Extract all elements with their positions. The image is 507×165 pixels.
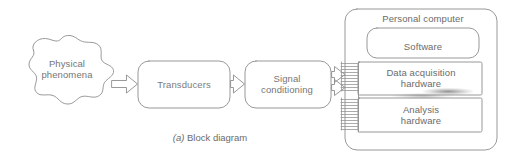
arrow-phenomena-to-transducers <box>112 75 138 93</box>
analysis-bus-ribbon <box>341 98 359 130</box>
figure-caption: (a) Block diagram <box>130 132 290 143</box>
personal-computer-label: Personal computer <box>364 13 482 24</box>
physical-phenomena-label: Physical phenomena <box>36 58 98 80</box>
arrow-signal-to-daq <box>332 67 345 83</box>
signal-conditioning-label: Signal conditioning <box>246 73 328 95</box>
figure-caption-text: Block diagram <box>187 132 247 143</box>
data-acquisition-hardware-label: Data acquisition hardware <box>358 67 484 89</box>
software-label: Software <box>372 41 474 52</box>
figure-caption-tag: (a) <box>173 132 185 143</box>
transducers-label: Transducers <box>140 79 228 90</box>
block-diagram-figure: Physical phenomena Transducers Signal co… <box>0 0 507 165</box>
analysis-hardware-label: Analysis hardware <box>362 104 480 126</box>
arrow-transducers-to-signal <box>231 75 245 93</box>
